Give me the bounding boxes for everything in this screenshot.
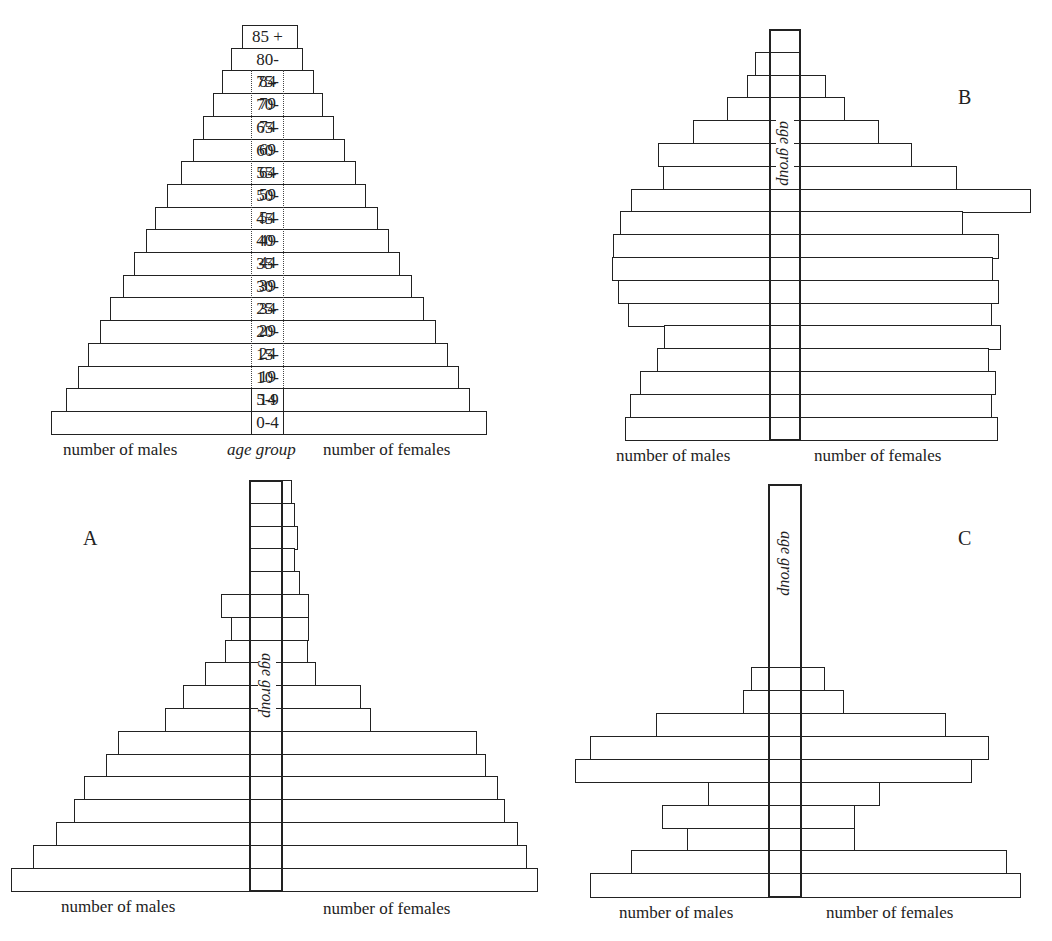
b-bar-40-44 (613, 234, 999, 258)
b-bar-10-14 (640, 371, 996, 395)
a-males-label: number of males (61, 897, 175, 917)
b-bar-25-29 (628, 303, 992, 327)
b-females-label: number of females (814, 446, 941, 466)
a-bar-10-14 (56, 822, 518, 846)
key-age-group-label: age group (227, 440, 296, 460)
b-males-label: number of males (616, 446, 730, 466)
age-column-dashes (251, 70, 284, 388)
age-cell-box (251, 388, 284, 412)
a-bar-15-19 (74, 799, 505, 823)
b-age-column (769, 29, 801, 441)
a-bar-25-29 (106, 754, 486, 778)
a-bar-30-34 (118, 731, 477, 755)
a-age-group-vertical-label: age group (258, 650, 276, 721)
population-pyramids-figure: 85 +80-8475-7970-7465-6960-6455-5950-544… (0, 0, 1052, 941)
c-bar-5-9 (631, 850, 1007, 875)
letter-a: A (83, 527, 97, 550)
b-bar-0-4 (625, 417, 998, 441)
key-females-label: number of females (323, 440, 450, 460)
b-bar-50-54 (631, 189, 1031, 213)
a-bar-20-24 (84, 776, 498, 800)
b-bar-30-34 (618, 280, 999, 304)
b-bar-55-59 (663, 166, 957, 190)
key-males-label: number of males (63, 440, 177, 460)
c-males-label: number of males (619, 903, 733, 923)
c-bar-15-19 (662, 805, 855, 830)
c-bar-0-4 (590, 873, 1021, 898)
b-bar-15-19 (657, 348, 989, 372)
letter-b: B (958, 86, 971, 109)
b-bar-20-24 (664, 325, 1001, 349)
letter-c: C (958, 527, 971, 550)
b-age-group-vertical-label: age group (776, 118, 794, 189)
age-cell-box (251, 411, 284, 435)
c-females-label: number of females (826, 903, 953, 923)
c-age-group-vertical-label: age group (777, 528, 795, 599)
b-bar-5-9 (630, 394, 992, 418)
b-bar-35-39 (612, 257, 993, 281)
age-group-label: 85 + (251, 26, 284, 48)
a-females-label: number of females (323, 899, 450, 919)
